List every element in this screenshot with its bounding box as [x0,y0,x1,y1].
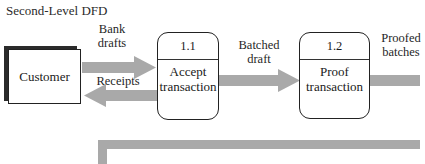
process-name: Proof transaction [300,64,369,94]
flow-label-line: draft [234,52,284,66]
flow-label-line: batches [376,45,425,59]
diagram-title: Second-Level DFD [6,3,107,19]
flow-label-line: drafts [92,36,132,50]
process-name-line: Proof [300,64,369,79]
bottom-flow-line [98,140,420,164]
process-name-line: transaction [158,79,218,94]
flow-label-line: Proofed [376,31,425,45]
process-id: 1.2 [300,33,369,60]
external-entity-customer: Customer [8,49,81,104]
flow-label-receipts: Receipts [88,74,148,88]
flow-label-line: Bank [92,22,132,36]
arrow-batched-draft [218,69,300,92]
process-1-2: 1.2 Proof transaction [299,32,370,119]
flow-label-batched-draft: Batched draft [234,38,284,66]
process-id: 1.1 [158,33,218,60]
process-name-line: Accept [158,64,218,79]
flow-label-line: Receipts [88,74,148,88]
flow-label-proofed-batches: Proofed batches [376,31,425,59]
entity-label: Customer [19,69,70,85]
arrow-proofed-batches [370,75,420,86]
flow-label-line: Batched [234,38,284,52]
process-name: Accept transaction [158,64,218,94]
process-1-1: 1.1 Accept transaction [157,32,219,120]
flow-label-bank-drafts: Bank drafts [92,22,132,50]
process-name-line: transaction [300,79,369,94]
